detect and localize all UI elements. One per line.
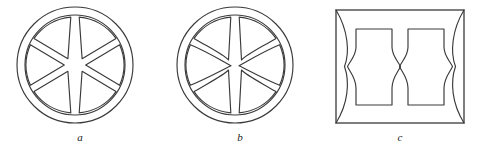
sector-top-left (194, 17, 231, 60)
figure-c-artwork (320, 0, 480, 134)
sector-bottom-right (79, 71, 116, 113)
figure-b-artwork (160, 0, 320, 134)
sector-right (86, 45, 124, 86)
sector-left (26, 45, 64, 86)
sector-bottom-right (239, 70, 276, 113)
inner-ring-circle (185, 15, 285, 115)
outer-ring-circle (177, 7, 293, 123)
inner-ring-circle (25, 15, 125, 115)
sector-right (239, 45, 284, 86)
sector-top-left (34, 17, 71, 59)
outer-ring-circle (17, 7, 133, 123)
figure-a: a (0, 0, 160, 161)
sector-bottom-left (34, 71, 71, 113)
sector-top-right (79, 17, 116, 59)
waist-curve-left-lower (336, 67, 347, 124)
sector-bottom-left (194, 70, 231, 113)
sector-left (186, 45, 231, 86)
waisted-block-1 (348, 29, 401, 105)
sector-top-right (239, 17, 276, 60)
waisted-block-2 (400, 29, 453, 105)
figure-c: c (320, 0, 480, 161)
figure-b-caption: b (160, 130, 320, 144)
figure-plate: a b (0, 0, 480, 161)
figure-c-caption: c (320, 130, 480, 144)
figure-b: b (160, 0, 320, 161)
waist-curve-left-upper (336, 10, 347, 67)
figure-a-artwork (0, 0, 160, 134)
waist-curve-right-upper (453, 10, 464, 67)
waist-curve-right-lower (453, 67, 464, 124)
figure-a-caption: a (0, 130, 160, 144)
